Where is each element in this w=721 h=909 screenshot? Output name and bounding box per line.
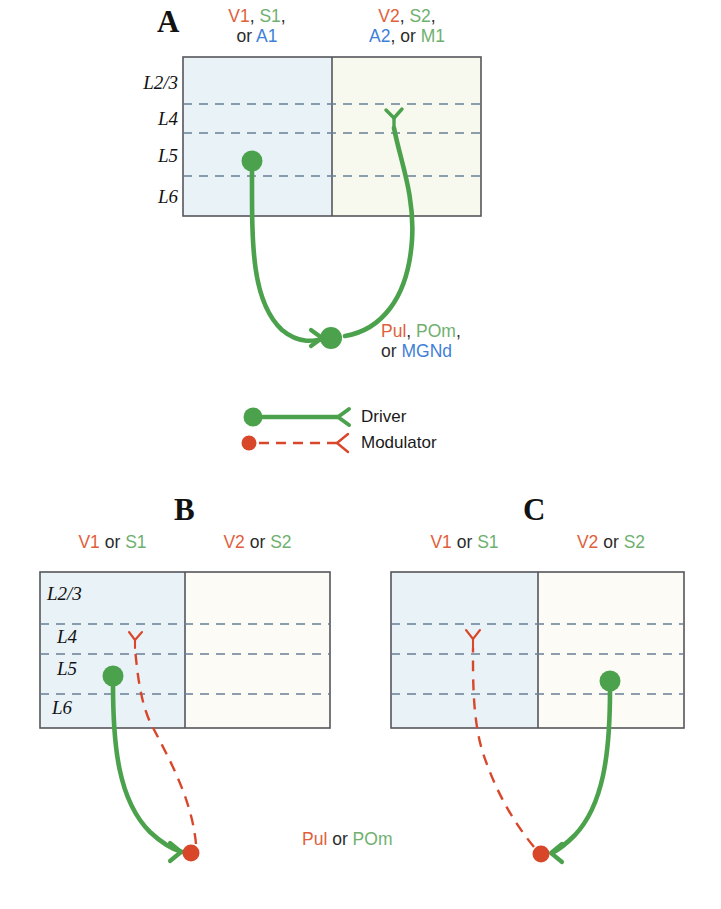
panel-c-left-area-label: V1 or S1 <box>391 532 538 552</box>
legend-symbols <box>242 408 350 453</box>
panel-c-cortex-box <box>391 572 684 728</box>
legend-modulator-arrowhead <box>337 434 348 452</box>
panel-letter-c: C <box>523 492 545 528</box>
panel-b-layer-l5: L5 <box>57 658 77 680</box>
panel-a-layer-l23: L2/3 <box>118 72 178 94</box>
panel-letter-b: B <box>174 492 195 528</box>
panel-a-cortex-box <box>183 57 481 216</box>
panel-a-l5-soma <box>242 151 263 172</box>
panel-b-l5-soma <box>103 666 124 687</box>
panel-c-l5-soma <box>600 671 621 692</box>
panel-b-cortex-box <box>40 572 330 728</box>
panel-b-layer-l23: L2/3 <box>47 583 82 605</box>
panel-letter-a: A <box>157 4 179 40</box>
figure-canvas: .boxstroke{stroke:#55565a;stroke-width:1… <box>0 0 721 909</box>
panel-c-thalamic-relay <box>533 846 550 863</box>
legend-label-modulator: Modulator <box>361 433 437 453</box>
panel-a-nucleus-label: Pul, POm, or MGNd <box>381 321 461 361</box>
panel-b-thalamic-relay <box>183 845 200 862</box>
diagram-artwork: .boxstroke{stroke:#55565a;stroke-width:1… <box>0 0 721 909</box>
panel-a-layer-l5: L5 <box>118 145 178 167</box>
legend-driver-arrowhead <box>338 409 349 425</box>
panel-b-right-area-label: V2 or S2 <box>185 532 330 552</box>
panel-b-left-area-label: V1 or S1 <box>40 532 185 552</box>
panel-bc-nucleus-label: Pul or POm <box>302 829 392 849</box>
legend-driver-circle <box>244 408 263 427</box>
legend-modulator-circle <box>242 436 257 451</box>
panel-c-right-area-label: V2 or S2 <box>538 532 684 552</box>
panel-a-right-area-label: V2, S2, A2, or M1 <box>332 6 482 46</box>
panel-a-layer-l6: L6 <box>118 186 178 208</box>
panel-a-left-area-label: V1, S1, or A1 <box>182 6 332 46</box>
panel-b-layer-l6: L6 <box>52 697 72 719</box>
legend-label-driver: Driver <box>361 407 406 427</box>
panel-a-layer-l4: L4 <box>118 108 178 130</box>
panel-b-layer-l4: L4 <box>57 626 77 648</box>
